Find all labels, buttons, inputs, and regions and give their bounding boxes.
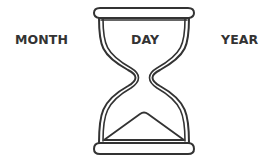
year-label: YEAR <box>221 33 258 47</box>
day-label: DAY <box>131 33 159 47</box>
hourglass-icon <box>0 0 267 164</box>
month-label: MONTH <box>15 33 68 47</box>
